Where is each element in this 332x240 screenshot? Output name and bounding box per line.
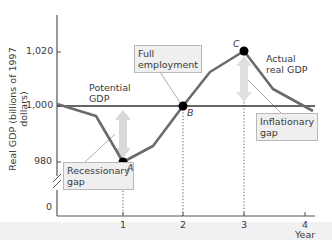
x-axis-label: Year [295, 229, 315, 240]
inflationary-gap-box: Inflationary gap [256, 113, 318, 141]
point-a-label: A [127, 162, 134, 173]
x-tick-3: 3 [241, 219, 247, 230]
y-tick-980: 980 [34, 155, 52, 166]
full-employment-box: Full employment [134, 45, 202, 73]
recessionary-gap-box: Recessionary gap [63, 162, 134, 190]
full-employment-leader [160, 72, 181, 104]
point-c [240, 47, 249, 56]
potential-gdp-label: Potential GDP [89, 82, 131, 104]
point-b-label: B [187, 107, 194, 118]
y-tick-1000: 1,000 [26, 99, 53, 110]
inflationary-gap-arrow [236, 56, 252, 102]
actual-gdp-label: Actual real GDP [266, 53, 307, 75]
inflation-leader [248, 80, 283, 115]
point-c-label: C [233, 38, 240, 49]
y-tick-1020: 1,020 [26, 45, 53, 56]
x-tick-1: 1 [120, 219, 126, 230]
y-tick-0: 0 [46, 201, 52, 212]
x-tick-2: 2 [180, 219, 186, 230]
